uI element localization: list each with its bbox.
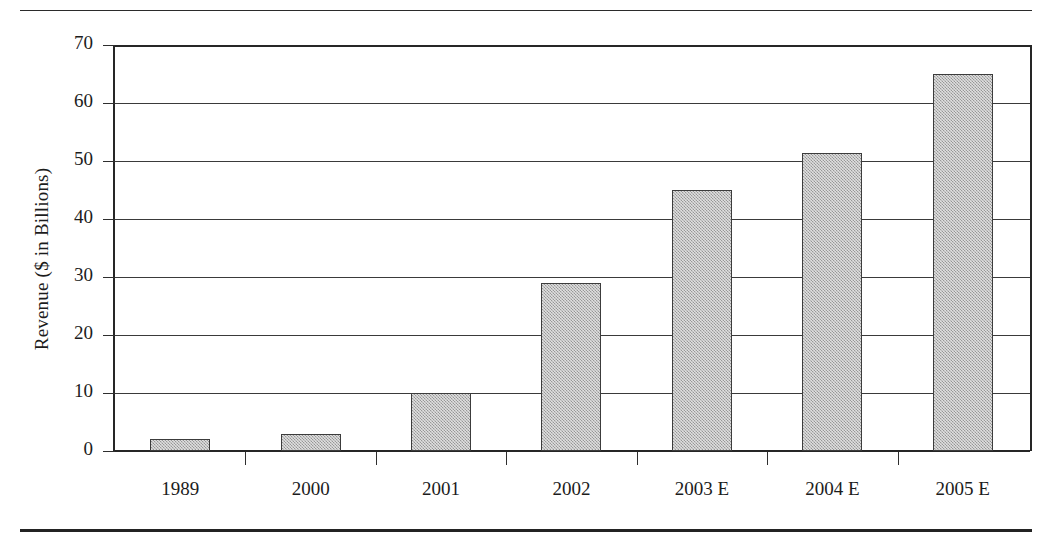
- y-axis-tick-label: 50: [47, 148, 93, 170]
- y-axis-tick-label: 0: [47, 438, 93, 460]
- bar-slot: [637, 45, 767, 451]
- bar: [933, 74, 993, 451]
- x-axis-tick: [245, 452, 246, 465]
- x-axis-tick: [767, 452, 768, 465]
- y-axis-tick: [103, 161, 115, 162]
- x-axis-tick-label: 2003 E: [637, 478, 767, 500]
- bar-slot: [376, 45, 506, 451]
- y-axis-tick: [103, 393, 115, 394]
- x-axis-tick-label: 2004 E: [767, 478, 897, 500]
- x-axis-tick: [898, 452, 899, 465]
- y-axis-tick-label: 30: [47, 264, 93, 286]
- bar-slot: [115, 45, 245, 451]
- bar: [150, 439, 210, 451]
- bar: [411, 393, 471, 451]
- y-axis-tick-label: 60: [47, 90, 93, 112]
- y-axis-tick-label: 40: [47, 206, 93, 228]
- y-axis-tick-label: 10: [47, 380, 93, 402]
- y-axis-tick: [103, 335, 115, 336]
- x-axis-tick-label: 1989: [115, 478, 245, 500]
- top-horizontal-rule: [20, 10, 1032, 11]
- y-axis-tick: [103, 451, 115, 452]
- y-axis-tick: [103, 219, 115, 220]
- x-axis-tick-label: 2002: [506, 478, 636, 500]
- y-axis-tick: [103, 103, 115, 104]
- bottom-horizontal-rule: [20, 529, 1032, 532]
- bar-slot: [506, 45, 636, 451]
- bar-slot: [898, 45, 1028, 451]
- bar: [802, 153, 862, 451]
- bar: [672, 190, 732, 451]
- x-axis-tick: [637, 452, 638, 465]
- y-axis-tick: [103, 45, 115, 46]
- bar-slot: [245, 45, 375, 451]
- x-axis-tick-label: 2005 E: [898, 478, 1028, 500]
- x-axis-tick-label: 2001: [376, 478, 506, 500]
- bars-group: [115, 45, 1028, 451]
- y-axis-tick-label: 20: [47, 322, 93, 344]
- y-axis-tick-label: 70: [47, 32, 93, 54]
- x-axis-tick: [376, 452, 377, 465]
- x-axis-tick-label: 2000: [245, 478, 375, 500]
- y-axis-tick: [103, 277, 115, 278]
- bar-slot: [767, 45, 897, 451]
- bar: [541, 283, 601, 451]
- x-axis-tick: [506, 452, 507, 465]
- figure-container: Revenue ($ in Billions) 010203040506070 …: [0, 0, 1053, 544]
- bar: [281, 434, 341, 451]
